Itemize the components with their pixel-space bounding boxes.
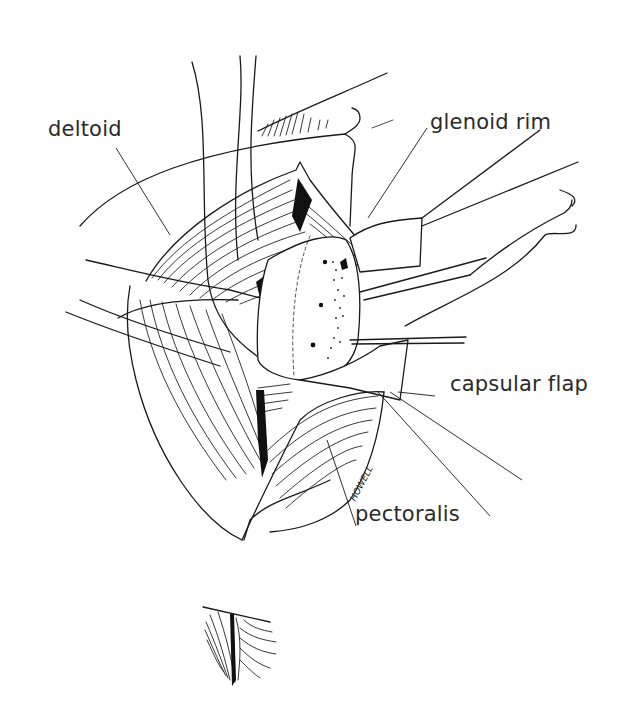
label-capsular-flap: capsular flap <box>450 372 588 396</box>
shoulder-anatomy-illustration: deltoid glenoid rim capsular flap pector… <box>0 0 619 718</box>
leader-deltoid <box>116 148 170 235</box>
leader-glenoid-rim <box>368 128 427 218</box>
detail-sketch <box>203 607 276 686</box>
label-glenoid-rim: glenoid rim <box>430 110 551 134</box>
label-pectoralis: pectoralis <box>355 502 460 526</box>
leader-capsular-flap <box>398 392 435 396</box>
label-deltoid: deltoid <box>48 117 122 141</box>
illustration-drawing <box>0 0 619 718</box>
